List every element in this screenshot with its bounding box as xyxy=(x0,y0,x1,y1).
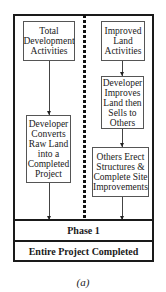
completion-row: Entire Project Completed xyxy=(13,240,154,262)
box-label: Developer Converts Raw Land into a Compl… xyxy=(28,119,70,179)
figure-caption: (a) xyxy=(0,276,166,288)
box-developer-converts: Developer Converts Raw Land into a Compl… xyxy=(26,115,71,183)
box-label: Developer Improves Land then Sells to Ot… xyxy=(103,78,143,128)
box-improved-land: Improved Land Activities xyxy=(101,21,145,61)
connector-line xyxy=(49,183,50,220)
box-label: Total Development Activities xyxy=(23,26,74,56)
dotted-divider xyxy=(83,15,86,220)
box-total-development: Total Development Activities xyxy=(23,21,75,61)
phase-row: Phase 1 xyxy=(13,219,154,242)
box-others-erect: Others Erect Structures & Complete Site … xyxy=(92,147,149,197)
phase-label: Phase 1 xyxy=(67,225,100,236)
completion-label: Entire Project Completed xyxy=(29,246,139,257)
box-label: Others Erect Structures & Complete Site … xyxy=(93,152,148,192)
connector-line xyxy=(49,61,50,115)
box-developer-improves: Developer Improves Land then Sells to Ot… xyxy=(101,76,144,129)
box-label: Improved Land Activities xyxy=(105,26,142,56)
